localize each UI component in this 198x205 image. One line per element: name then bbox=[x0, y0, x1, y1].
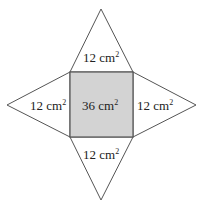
right-face-label: 12 cm2 bbox=[137, 98, 173, 113]
base-label: 36 cm2 bbox=[82, 98, 118, 113]
bottom-face-label: 12 cm2 bbox=[83, 147, 119, 162]
pyramid-net-diagram: 12 cm2 12 cm2 36 cm2 12 cm2 12 cm2 bbox=[0, 0, 198, 205]
top-face-label: 12 cm2 bbox=[83, 50, 119, 65]
left-face-label: 12 cm2 bbox=[30, 98, 66, 113]
